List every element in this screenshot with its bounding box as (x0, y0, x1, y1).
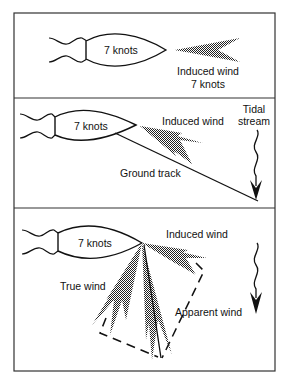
tidal-stream-label: Tidal (243, 103, 265, 115)
boat-speed-label: 7 knots (78, 237, 112, 249)
induced-wind-speed-label: 7 knots (191, 78, 225, 90)
tidal-stream-arrow-icon (250, 130, 262, 200)
induced-wind-label: Induced wind (177, 65, 239, 77)
boat-speed-label: 7 knots (74, 120, 108, 132)
induced-wind-label: Induced wind (162, 115, 224, 127)
panel-1: 7 knots Induced wind 7 knots (49, 34, 240, 90)
ground-track-label: Ground track (120, 167, 181, 179)
induced-wind-label: Induced wind (166, 228, 228, 240)
apparent-wind-label: Apparent wind (175, 306, 242, 318)
apparent-wind-arrow-icon (142, 243, 172, 360)
panel-2: 7 knots Induced wind Ground track Tidal … (20, 103, 270, 201)
panel-3: 7 knots Induced wind True wind Apparent … (22, 226, 262, 360)
tidal-stream-label-line2: stream (238, 115, 270, 127)
tidal-stream-arrow-icon (250, 243, 262, 314)
wind-vector-diagram: 7 knots Induced wind 7 knots 7 knots Ind… (0, 0, 289, 385)
induced-wind-arrow-icon (140, 126, 203, 164)
boat-speed-label: 7 knots (104, 44, 138, 56)
induced-wind-arrow-icon (175, 38, 240, 62)
induced-wind-arrow-icon (142, 243, 207, 275)
true-wind-label: True wind (60, 280, 106, 292)
